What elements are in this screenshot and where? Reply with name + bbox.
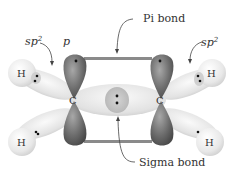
h-atom-bottom-right: H [196, 128, 224, 156]
arrow-pi-bond [117, 19, 133, 50]
sigma-bond-label: Sigma bond [139, 156, 205, 169]
pi-bond-label: Pi bond [143, 12, 185, 25]
h-label: H [207, 68, 216, 79]
h-label: H [205, 137, 214, 148]
arrow-sp2-left [40, 43, 52, 62]
sigma-bond-orbital [70, 84, 166, 116]
carbon-left-label: C [69, 95, 77, 106]
h-atom-top-left: H [8, 59, 41, 87]
h-label: H [17, 137, 26, 148]
sp2-left-label: sp2 [25, 35, 43, 48]
carbon-right-label: C [156, 95, 164, 106]
orbital-diagram: C C H H H H sp2 p [0, 0, 241, 176]
sp2-right-label: sp2 [201, 36, 219, 49]
p-label: p [63, 35, 70, 48]
h-label: H [17, 68, 26, 79]
h-atom-top-right: H [194, 59, 226, 87]
